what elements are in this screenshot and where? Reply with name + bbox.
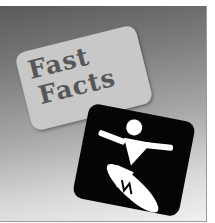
- fast-facts-graphic: Fast Facts: [0, 6, 207, 222]
- surfer-icon: [72, 103, 196, 218]
- surfing-sign: [72, 103, 196, 218]
- card-title: Fast Facts: [25, 31, 145, 110]
